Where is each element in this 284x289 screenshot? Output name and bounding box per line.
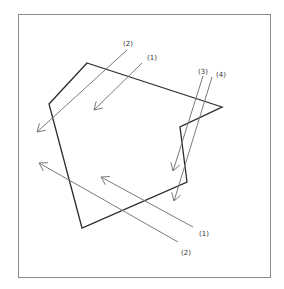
arrow-label: (4) bbox=[216, 71, 226, 79]
arrow-top-1: (1) bbox=[94, 54, 157, 110]
arrow-bottom-2: (2) bbox=[39, 163, 191, 257]
arrow-shaft bbox=[94, 63, 142, 110]
arrow-right-3: (3) bbox=[171, 68, 208, 171]
polygon-shape bbox=[49, 63, 222, 228]
diagram-frame bbox=[19, 15, 271, 278]
arrow-group: (2)(1)(3)(4)(1)(2) bbox=[37, 40, 226, 257]
arrow-shaft bbox=[174, 77, 212, 201]
arrow-label: (1) bbox=[147, 54, 157, 62]
arrow-right-4: (4) bbox=[172, 71, 226, 201]
arrow-shaft bbox=[39, 163, 178, 242]
arrow-label: (2) bbox=[123, 40, 133, 48]
arrow-label: (1) bbox=[199, 230, 209, 238]
arrow-label: (2) bbox=[181, 249, 191, 257]
diagram-canvas: (2)(1)(3)(4)(1)(2) bbox=[0, 0, 284, 289]
arrow-label: (3) bbox=[198, 68, 208, 76]
